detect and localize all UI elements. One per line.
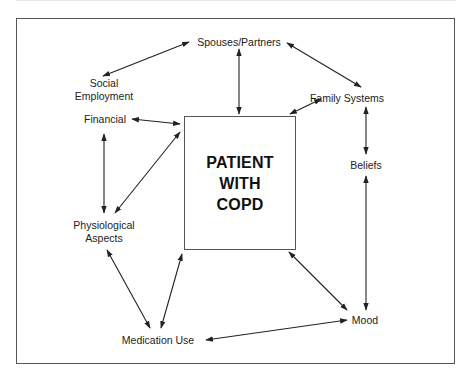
arrow-physiological-medication	[107, 250, 150, 328]
node-social-line-1: Social	[75, 77, 133, 90]
node-medication-use: Medication Use	[122, 334, 194, 347]
arrow-physiological-patient	[115, 132, 180, 213]
node-physiological-line-2: Aspects	[73, 232, 134, 245]
arrow-spouses-social	[103, 42, 189, 76]
node-financial: Financial	[84, 113, 126, 126]
arrow-spouses-family	[287, 43, 361, 87]
center-line-3: COPD	[216, 194, 263, 215]
arrow-patient-mood	[289, 252, 347, 310]
node-social-line-2: Employment	[75, 90, 133, 103]
node-physiological-line-1: Physiological	[73, 219, 134, 232]
patient-with-copd-box: PATIENT WITH COPD	[184, 116, 296, 250]
arrow-financial-patient	[132, 119, 180, 124]
node-family-systems: Family Systems	[310, 92, 384, 105]
node-mood: Mood	[352, 314, 378, 327]
figure-caption-cutoff	[16, 378, 456, 384]
center-line-1: PATIENT	[206, 152, 273, 173]
arrow-medication-mood	[206, 320, 347, 340]
node-beliefs: Beliefs	[350, 159, 382, 172]
arrow-medication-patient	[161, 254, 182, 328]
center-line-2: WITH	[219, 173, 261, 194]
node-social-employment: Social Employment	[75, 77, 133, 103]
node-physiological-aspects: Physiological Aspects	[73, 219, 134, 245]
node-spouses-partners: Spouses/Partners	[197, 36, 280, 49]
